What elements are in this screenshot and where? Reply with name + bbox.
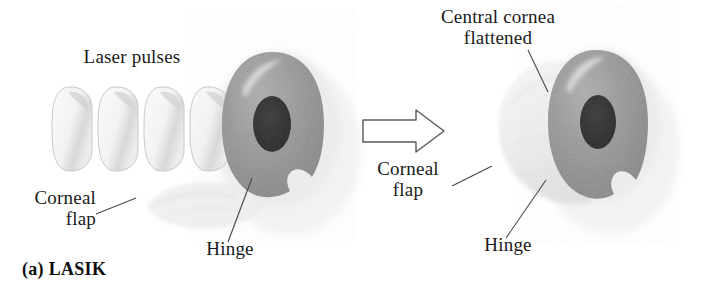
hinge-label: Hinge [466, 234, 550, 255]
corneal-flap-leader-line [96, 198, 136, 214]
pupil [253, 96, 291, 152]
laser-pulse [98, 87, 138, 171]
hinge-leader-line [506, 180, 546, 238]
central-cornea-flattened-label: Central cornea flattened [400, 6, 596, 48]
figure-caption: (a) LASIK [22, 259, 106, 280]
corneal-flap-leader-line [452, 166, 492, 186]
hinge-label: Hinge [188, 238, 272, 259]
corneal-flap-label: Corneal flap [364, 158, 452, 200]
after-eye-group [452, 50, 680, 238]
corneal-flap-label: Corneal flap [0, 187, 96, 229]
laser-pulses-label: Laser pulses [52, 46, 212, 67]
laser-pulses-group [52, 87, 230, 171]
before-eye-group [52, 52, 362, 242]
process-arrow [363, 110, 444, 152]
laser-pulse [144, 87, 184, 171]
pupil [580, 95, 616, 149]
laser-pulse [52, 87, 92, 171]
lasik-figure: Laser pulses Corneal flap Hinge (a) LASI… [0, 0, 701, 300]
